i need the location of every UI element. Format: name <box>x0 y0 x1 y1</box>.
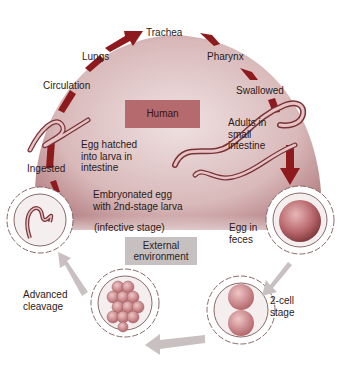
label-adults: Adults in small intestine <box>228 117 266 152</box>
egg-feces-line2: feces <box>229 234 257 246</box>
diagram-artwork <box>0 0 354 371</box>
embryonated-line1: Embryonated egg <box>93 189 183 201</box>
label-circulation: Circulation <box>43 80 90 92</box>
advanced-line1: Advanced <box>23 289 67 301</box>
label-egg-in-feces: Egg in feces <box>229 222 257 245</box>
two-cell-line2: stage <box>270 307 294 319</box>
human-label-text: Human <box>146 108 178 120</box>
egg-feces-line1: Egg in <box>229 222 257 234</box>
label-swallowed: Swallowed <box>236 85 284 97</box>
hatched-line1: Egg hatched <box>81 139 137 151</box>
external-label-line1: External <box>143 240 180 252</box>
life-cycle-diagram: Human External environment Trachea Lungs… <box>0 0 354 371</box>
label-lungs: Lungs <box>82 51 109 63</box>
adults-line1: Adults in <box>228 117 266 129</box>
label-embryonated-egg: Embryonated egg with 2nd-stage larva <box>93 189 183 212</box>
egg-advanced-cleavage <box>91 269 159 337</box>
label-pharynx: Pharynx <box>207 51 244 63</box>
arrow-to-two-cell <box>262 262 292 296</box>
advanced-line2: cleavage <box>23 301 67 313</box>
adults-line2: small <box>228 129 266 141</box>
egg-in-feces <box>266 186 334 254</box>
hatched-line3: intestine <box>81 162 137 174</box>
human-region-label: Human <box>125 100 200 128</box>
label-infective-stage: (infective stage) <box>94 222 165 234</box>
external-environment-label: External environment <box>125 237 197 265</box>
adults-line3: intestine <box>228 140 266 152</box>
embryonated-line2: with 2nd-stage larva <box>93 201 183 213</box>
label-advanced-cleavage: Advanced cleavage <box>23 289 67 312</box>
label-egg-hatched: Egg hatched into larva in intestine <box>81 139 137 174</box>
external-label-line2: environment <box>133 251 188 263</box>
hatched-line2: into larva in <box>81 151 137 163</box>
label-two-cell-stage: 2-cell stage <box>270 295 294 318</box>
arrow-to-advanced <box>145 334 205 355</box>
label-ingested: Ingested <box>27 163 65 175</box>
label-trachea: Trachea <box>146 27 182 39</box>
egg-embryonated <box>7 187 73 253</box>
two-cell-line1: 2-cell <box>270 295 294 307</box>
